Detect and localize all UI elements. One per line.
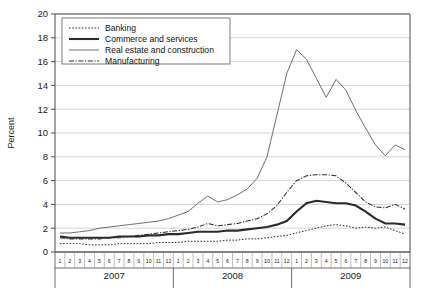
x-tick-label-month: 6: [108, 258, 111, 264]
x-tick-label-year: 2008: [222, 270, 243, 281]
x-tick-label-month: 5: [98, 258, 101, 264]
x-tick-label-month: 8: [364, 258, 367, 264]
x-tick-label-month: 3: [197, 258, 200, 264]
x-tick-label-month: 10: [264, 258, 270, 264]
x-tick-label-month: 6: [344, 258, 347, 264]
x-tick-label-month: 10: [146, 258, 152, 264]
y-tick-label: 0: [43, 246, 48, 257]
y-axis-title: Percent: [6, 117, 16, 149]
y-tick-label: 6: [43, 175, 48, 186]
x-tick-label-month: 7: [236, 258, 239, 264]
y-tick-label: 12: [37, 104, 48, 115]
legend-label: Manufacturing: [105, 56, 160, 66]
x-tick-label-month: 7: [354, 258, 357, 264]
x-tick-label-month: 3: [78, 258, 81, 264]
chart-container: 02468101214161820Percent1234567891011121…: [0, 0, 421, 304]
x-tick-label-year: 2009: [340, 270, 361, 281]
x-tick-label-month: 4: [88, 258, 91, 264]
x-tick-label-month: 12: [284, 258, 290, 264]
x-tick-label-month: 5: [216, 258, 219, 264]
x-tick-label-month: 9: [374, 258, 377, 264]
x-tick-label-month: 11: [156, 258, 161, 264]
y-tick-label: 2: [43, 223, 48, 234]
y-tick-label: 20: [37, 8, 48, 19]
y-tick-label: 4: [43, 199, 48, 210]
y-tick-label: 8: [43, 151, 48, 162]
x-tick-label-month: 12: [166, 258, 172, 264]
x-tick-label-month: 9: [137, 258, 140, 264]
y-tick-label: 10: [37, 127, 48, 138]
x-tick-label-month: 4: [206, 258, 209, 264]
x-tick-label-month: 4: [325, 258, 328, 264]
x-tick-label-month: 8: [128, 258, 131, 264]
x-tick-label-month: 11: [274, 258, 279, 264]
y-tick-label: 16: [37, 56, 48, 67]
y-tick-label: 18: [37, 32, 48, 43]
x-tick-label-month: 1: [295, 258, 298, 264]
x-tick-label-month: 7: [118, 258, 121, 264]
x-tick-label-month: 2: [68, 258, 71, 264]
x-tick-label-month: 2: [187, 258, 190, 264]
line-chart: 02468101214161820Percent1234567891011121…: [0, 0, 421, 304]
series-commerce-and-services: [60, 201, 405, 238]
x-tick-label-month: 12: [402, 258, 408, 264]
x-tick-label-month: 8: [246, 258, 249, 264]
x-tick-label-month: 1: [58, 258, 61, 264]
legend-label: Commerce and services: [105, 34, 198, 44]
x-tick-label-month: 1: [177, 258, 180, 264]
x-tick-label-month: 11: [393, 258, 398, 264]
series-banking: [60, 225, 405, 245]
x-tick-label-month: 9: [256, 258, 259, 264]
series-manufacturing: [60, 175, 405, 239]
x-tick-label-month: 5: [335, 258, 338, 264]
legend-label: Real estate and construction: [105, 45, 214, 55]
x-tick-label-month: 3: [315, 258, 318, 264]
y-tick-label: 14: [37, 80, 48, 91]
x-tick-label-month: 10: [382, 258, 388, 264]
x-tick-label-year: 2007: [104, 270, 125, 281]
legend-label: Banking: [105, 23, 136, 33]
x-tick-label-month: 2: [305, 258, 308, 264]
x-tick-label-month: 6: [226, 258, 229, 264]
